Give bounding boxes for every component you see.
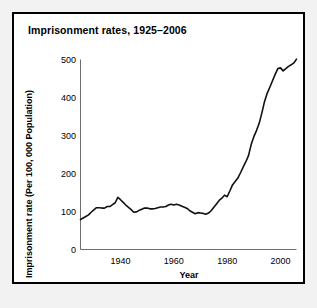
chart-page: Imprisonment rates, 1925–2006 Imprisonme… bbox=[0, 0, 317, 308]
x-tick-label-2000: 2000 bbox=[270, 256, 290, 266]
x-tick-label-1940: 1940 bbox=[110, 256, 130, 266]
x-tick-label-1960: 1960 bbox=[164, 256, 184, 266]
chart-panel: Imprisonment rates, 1925–2006 Imprisonme… bbox=[12, 12, 305, 284]
x-axis-title: Year bbox=[179, 270, 199, 280]
y-tick-label-100: 100 bbox=[61, 207, 76, 217]
y-tick-label-200: 200 bbox=[61, 169, 76, 179]
y-axis-title: Imprisonment rate (Per 100, 000 Populati… bbox=[24, 90, 34, 278]
data-series-line bbox=[81, 59, 297, 219]
y-tick-label-300: 300 bbox=[61, 131, 76, 141]
y-tick-label-500: 500 bbox=[61, 55, 76, 65]
y-tick-label-400: 400 bbox=[61, 93, 76, 103]
y-tick-label-0: 0 bbox=[71, 245, 76, 255]
chart-plot-area: Imprisonment rate (Per 100, 000 Populati… bbox=[14, 14, 303, 282]
x-tick-label-1980: 1980 bbox=[217, 256, 237, 266]
